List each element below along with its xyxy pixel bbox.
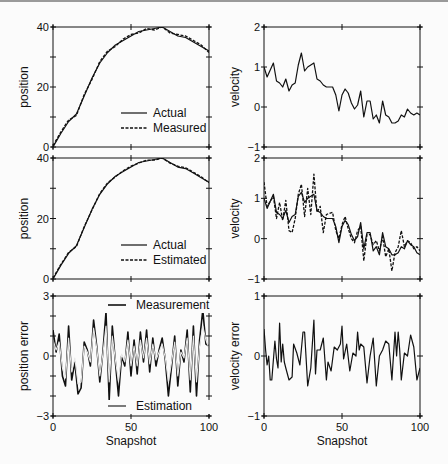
y-tick-label: 0: [254, 101, 260, 113]
y-tick-label: 2: [254, 21, 260, 33]
y-axis-label: velocity error: [228, 322, 242, 391]
position-measured-panel: 02040positionActualMeasured: [17, 21, 212, 153]
y-tick-label: 0: [254, 233, 260, 245]
legend-label: Measurement: [136, 298, 210, 312]
x-tick-label: 100: [200, 421, 218, 433]
velocity-estimated-panel: −1012velocity: [228, 152, 423, 285]
y-axis-label: velocity: [228, 198, 242, 238]
x-axis-label: Snapshot: [317, 434, 368, 448]
figure: 02040positionActualMeasured−1012velocity…: [0, 0, 448, 464]
y-tick-label: −3: [36, 410, 49, 422]
y-axis-label: position: [17, 198, 31, 239]
y-tick-label: 20: [37, 213, 49, 225]
estimated-line: [264, 174, 420, 271]
y-tick-label: 0: [254, 350, 260, 362]
legend-label: Estimation: [136, 399, 192, 413]
legend-label: Measured: [153, 121, 206, 135]
measurement-line: [53, 310, 209, 400]
y-axis-label: position: [17, 66, 31, 107]
x-tick-label: 100: [411, 421, 429, 433]
x-tick-label: 0: [261, 421, 267, 433]
x-axis-label: Snapshot: [106, 434, 157, 448]
y-tick-label: 1: [254, 192, 260, 204]
position-error-series: [53, 310, 209, 400]
position-estimated-panel: 02040positionActualEstimated: [17, 152, 212, 285]
y-tick-label: 40: [37, 21, 49, 33]
legend-label: Actual: [153, 238, 186, 252]
velocity-actual-panel: −1012velocity: [228, 21, 423, 153]
y-tick-label: 0: [43, 350, 49, 362]
velocity-error-line: [264, 320, 420, 386]
y-tick-label: −1: [247, 273, 260, 285]
velocity-error-series: [264, 320, 420, 386]
y-tick-label: 3: [43, 290, 49, 302]
x-tick-label: 50: [125, 421, 137, 433]
y-tick-label: 0: [43, 273, 49, 285]
y-tick-label: 1: [254, 61, 260, 73]
y-axis-label: velocity: [228, 67, 242, 107]
x-tick-label: 0: [50, 421, 56, 433]
position-error-panel: −303050100Snapshotposition errorMeasurem…: [17, 290, 263, 448]
y-tick-label: 40: [37, 152, 49, 164]
legend-label: Estimated: [153, 253, 206, 267]
legend-label: Actual: [153, 106, 186, 120]
y-axis-label: position error: [17, 321, 31, 391]
velocity-error-panel: −101050100Snapshotvelocity error: [228, 290, 429, 448]
velocity-estimated-series: [264, 174, 420, 271]
x-tick-label: 50: [336, 421, 348, 433]
y-tick-label: 1: [254, 290, 260, 302]
velocity-actual-series: [264, 53, 420, 123]
y-tick-label: 20: [37, 81, 49, 93]
y-tick-label: 2: [254, 152, 260, 164]
actual-line: [264, 53, 420, 123]
y-tick-label: −1: [247, 410, 260, 422]
